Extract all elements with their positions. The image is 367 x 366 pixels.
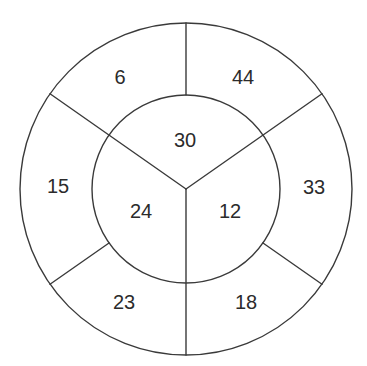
segment-label-right: 33 — [303, 176, 325, 198]
segment-label-left: 15 — [47, 175, 69, 197]
divider-upper-left — [50, 94, 186, 189]
segment-label-inner-lower-left: 24 — [130, 200, 152, 222]
segment-label-inner-top: 30 — [174, 129, 196, 151]
divider-lower-right — [263, 243, 322, 284]
segment-label-top-left: 6 — [114, 66, 125, 88]
divider-upper-right — [186, 94, 322, 189]
bullseye-diagram: 6 44 33 18 23 15 30 12 24 — [0, 0, 367, 366]
segment-label-bottom-left: 23 — [113, 291, 135, 313]
divider-lower-left — [50, 243, 109, 284]
segment-label-inner-lower-right: 12 — [219, 200, 241, 222]
segment-label-top-right: 44 — [232, 66, 254, 88]
segment-label-bottom-right: 18 — [235, 291, 257, 313]
